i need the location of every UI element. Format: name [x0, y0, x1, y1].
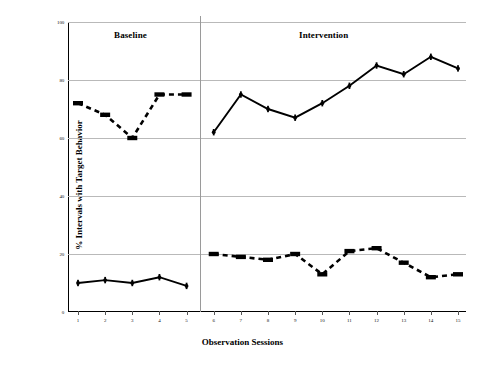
data-point-marker [290, 252, 300, 256]
x-tick-label: 9 [294, 318, 297, 324]
data-point-marker [399, 261, 409, 265]
data-point-marker [372, 246, 382, 250]
x-tick-label: 6 [212, 318, 215, 324]
x-axis-title: Observation Sessions [0, 337, 485, 347]
x-tick-label: 13 [401, 318, 406, 324]
data-series [76, 274, 188, 289]
y-tick-label: 100 [57, 20, 64, 25]
data-point-marker [348, 84, 352, 88]
data-point-marker [76, 281, 80, 285]
y-tick-label: 0 [62, 310, 64, 315]
data-point-marker [103, 278, 107, 282]
data-point-marker [402, 72, 406, 76]
data-series [209, 246, 463, 279]
data-point-marker [456, 67, 460, 71]
x-tick-label: 14 [428, 318, 433, 324]
data-point-marker [73, 101, 83, 105]
x-tick-label: 5 [185, 318, 188, 324]
data-point-marker [317, 272, 327, 276]
data-point-marker [426, 275, 436, 279]
data-point-marker [212, 130, 216, 134]
data-point-marker [320, 101, 324, 105]
data-point-marker [375, 64, 379, 68]
x-tick-label: 1 [77, 318, 80, 324]
data-point-marker [263, 258, 273, 262]
data-point-marker [344, 249, 354, 253]
y-tick-label: 20 [59, 252, 64, 257]
x-tick-label: 2 [104, 318, 107, 324]
x-tick-label: 3 [131, 318, 134, 324]
x-tick-label: 11 [347, 318, 352, 324]
data-point-marker [453, 272, 463, 276]
data-series [73, 92, 192, 140]
data-series [212, 54, 460, 136]
y-tick-label: 40 [59, 194, 64, 199]
x-tick-label: 4 [158, 318, 161, 324]
data-point-marker [239, 93, 243, 97]
data-point-marker [154, 92, 164, 96]
data-series-layer [68, 22, 466, 312]
series-line [78, 95, 187, 139]
data-point-marker [266, 107, 270, 111]
chart-figure: % Intervals with Target Behavior Observa… [0, 0, 485, 369]
x-tick-label: 10 [320, 318, 325, 324]
x-tick-label: 15 [456, 318, 461, 324]
y-tick-label: 60 [59, 136, 64, 141]
data-point-marker [293, 116, 297, 120]
data-point-marker [209, 252, 219, 256]
data-point-marker [182, 92, 192, 96]
y-tick-label: 80 [59, 78, 64, 83]
series-line [214, 248, 458, 277]
data-point-marker [100, 113, 110, 117]
plot-area: 020406080100 123456789101112131415 Basel… [68, 22, 466, 312]
x-tick-label: 7 [240, 318, 243, 324]
data-point-marker [185, 284, 189, 288]
x-tick-label: 12 [374, 318, 379, 324]
data-point-marker [236, 255, 246, 259]
data-point-marker [127, 136, 137, 140]
series-line [214, 57, 458, 132]
x-tick-label: 8 [267, 318, 270, 324]
data-point-marker [429, 55, 433, 59]
data-point-marker [158, 275, 162, 279]
data-point-marker [130, 281, 134, 285]
